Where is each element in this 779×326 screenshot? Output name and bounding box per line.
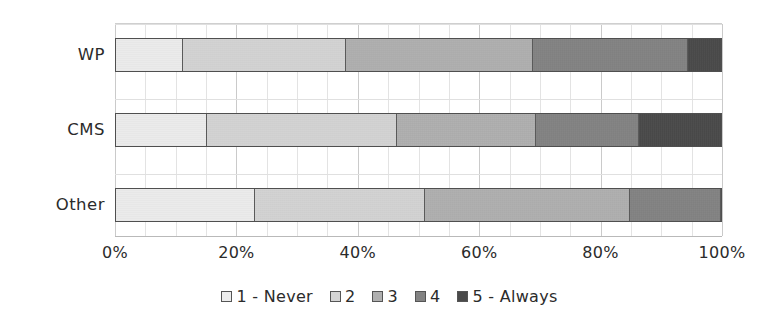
category-label-wp: WP (0, 45, 105, 64)
legend-swatch-icon (221, 291, 232, 302)
category-label-text: Other (56, 195, 105, 214)
plot-area (115, 23, 722, 237)
x-axis-tick-label: 0% (75, 243, 155, 262)
legend-swatch-icon (372, 291, 383, 302)
legend-swatch-icon (415, 291, 426, 302)
x-axis-tick-label: 60% (439, 243, 519, 262)
bar-segment (533, 39, 687, 71)
legend-label: 3 (387, 287, 397, 306)
bar-segment (688, 39, 721, 71)
x-axis-tick-label: 20% (196, 243, 276, 262)
bar-row (115, 38, 722, 72)
bar-segment (346, 39, 534, 71)
legend-swatch-icon (330, 291, 341, 302)
gridline-major (722, 24, 723, 236)
category-label-text: CMS (67, 120, 105, 139)
bar-segment (116, 189, 255, 221)
legend-item[interactable]: 1 - Never (221, 287, 313, 306)
x-axis-tick-label: 80% (561, 243, 641, 262)
x-axis-tick-label: 100% (682, 243, 762, 262)
legend-swatch-icon (457, 291, 468, 302)
gridline-horizontal (115, 174, 722, 175)
bar-segment (397, 114, 536, 146)
category-label-text: WP (78, 45, 105, 64)
category-label-cms: CMS (0, 120, 105, 139)
chart-legend: 1 - Never2345 - Always (0, 287, 779, 306)
bar-segment (639, 114, 721, 146)
legend-item[interactable]: 2 (330, 287, 355, 306)
bar-segment (255, 189, 424, 221)
bar-segment (183, 39, 346, 71)
bar-row (115, 188, 722, 222)
legend-label: 5 - Always (472, 287, 557, 306)
legend-item[interactable]: 3 (372, 287, 397, 306)
legend-label: 4 (430, 287, 440, 306)
bar-segment (630, 189, 721, 221)
bar-segment (116, 39, 183, 71)
legend-label: 1 - Never (236, 287, 313, 306)
gridline-horizontal (115, 24, 722, 25)
bar-segment (207, 114, 398, 146)
bar-segment (116, 114, 207, 146)
bar-segment (425, 189, 631, 221)
gridline-horizontal (115, 99, 722, 100)
bar-segment (536, 114, 639, 146)
legend-item[interactable]: 5 - Always (457, 287, 557, 306)
legend-label: 2 (345, 287, 355, 306)
bar-row (115, 113, 722, 147)
stacked-bar-chart: WP CMS Other 0%20%40%60%80%100% 1 - Neve… (0, 0, 779, 326)
x-axis-tick-label: 40% (318, 243, 398, 262)
legend-item[interactable]: 4 (415, 287, 440, 306)
category-label-other: Other (0, 195, 105, 214)
